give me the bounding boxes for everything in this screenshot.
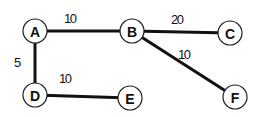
edge-b-c (132, 31, 230, 33)
node-b-label: B (127, 24, 137, 40)
node-f: F (223, 85, 247, 109)
edge-weight-a-b: 10 (64, 11, 77, 26)
edge-weight-d-e: 10 (59, 71, 72, 86)
node-d: D (23, 83, 47, 107)
node-e: E (118, 86, 142, 110)
node-f-label: F (231, 90, 240, 106)
graph-diagram: 10 20 10 5 10 A B C D E F (0, 0, 262, 117)
node-b: B (120, 19, 144, 43)
node-a-label: A (30, 24, 40, 40)
node-c-label: C (225, 26, 235, 42)
edge-weight-a-d: 5 (14, 55, 21, 70)
node-a: A (23, 19, 47, 43)
edge-weight-b-f: 10 (178, 47, 191, 62)
node-d-label: D (30, 88, 40, 104)
node-c: C (218, 21, 242, 45)
node-e-label: E (125, 91, 134, 107)
edge-d-e (35, 95, 130, 98)
edge-b-f (132, 31, 235, 97)
edge-weight-b-c: 20 (171, 12, 184, 27)
